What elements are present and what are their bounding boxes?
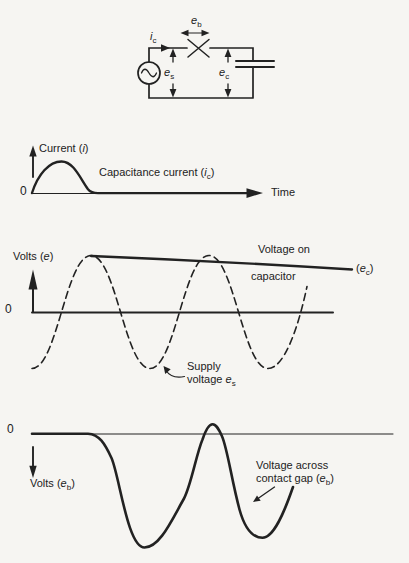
label-text: voltage	[187, 373, 226, 385]
label-sub: s	[232, 379, 236, 388]
eb-voltage-label: eb	[191, 14, 202, 29]
label-text: )	[71, 477, 75, 489]
voltage-origin-zero: 0	[5, 303, 12, 317]
label-sub: c	[152, 36, 156, 45]
label-sub: s	[170, 72, 174, 81]
capacitor-voltage-label-line1: Voltage on	[258, 243, 310, 256]
label-sub: c	[225, 72, 229, 81]
label-text: Supply	[187, 360, 221, 372]
es-arrowhead-up	[170, 49, 177, 58]
label-text: Time	[271, 186, 295, 198]
capacitor-icon	[236, 61, 274, 67]
voltage-axis-arrowhead	[29, 270, 38, 290]
time-axis-label: Time	[271, 186, 295, 199]
label-text: 0	[20, 184, 27, 198]
current-axis-label: Current (i)	[39, 142, 89, 155]
circuit-diagram	[138, 30, 274, 98]
capacitance-current-label: Capacitance current (ic)	[99, 166, 214, 181]
label-text: 0	[5, 302, 12, 316]
label-text: )	[330, 472, 334, 484]
label-text: 0	[7, 422, 14, 436]
ac-sine-icon	[142, 69, 157, 77]
supply-voltage-label-line2: voltage es	[187, 373, 236, 388]
label-text: Capacitance current (	[99, 166, 204, 178]
label-text: Volts (	[13, 250, 44, 262]
current-origin-zero: 0	[20, 185, 27, 199]
gap-voltage-graph	[29, 424, 393, 547]
es-voltage-label: es	[164, 66, 174, 81]
current-axis-arrowhead	[29, 146, 36, 157]
label-text: Current (	[39, 142, 82, 154]
volts-axis-label: Volts (e)	[13, 250, 53, 263]
label-text: contact gap (	[256, 472, 320, 484]
label-text: )	[50, 250, 54, 262]
ec-voltage-label: ec	[219, 66, 229, 81]
supply-annotation-arrow-shaft	[166, 371, 185, 378]
ec-tag-label: (ec)	[356, 262, 373, 277]
label-text: )	[370, 262, 374, 274]
supply-voltage-label-line1: Supply	[187, 360, 221, 373]
ec-arrowhead-down	[225, 89, 232, 98]
ic-current-label: ic	[150, 30, 156, 45]
capacitor-voltage-line	[91, 256, 352, 270]
time-axis-arrowhead	[247, 188, 264, 198]
capacitor-voltage-label-line2: capacitor	[251, 270, 296, 283]
label-sub: b	[197, 20, 201, 29]
label-text: )	[211, 166, 215, 178]
figure-page: ic eb es ec 0 Current (i) Capacitance cu…	[0, 0, 409, 563]
ic-current-arrowhead	[161, 44, 170, 52]
label-text: Volts (	[30, 477, 61, 489]
eb-arrowhead-left	[181, 30, 189, 36]
gap-voltage-label-line2: contact gap (eb)	[256, 472, 334, 487]
gap-annotation-arrow-shaft	[258, 487, 275, 499]
gap-origin-zero: 0	[7, 423, 14, 437]
label-text: Voltage on	[258, 243, 310, 255]
contact-gap-icon	[188, 40, 209, 58]
es-arrowhead-down	[170, 89, 177, 98]
voltage-graph	[29, 256, 353, 378]
label-text: capacitor	[251, 270, 296, 282]
label-text: Voltage across	[256, 459, 328, 471]
label-text: )	[85, 142, 89, 154]
gap-axis-label: Volts (eb)	[30, 477, 75, 492]
gap-annotation-arrowhead	[253, 496, 261, 503]
ec-arrowhead-up	[225, 49, 232, 58]
eb-arrowhead-right	[202, 30, 210, 36]
gap-voltage-label-line1: Voltage across	[256, 459, 328, 472]
